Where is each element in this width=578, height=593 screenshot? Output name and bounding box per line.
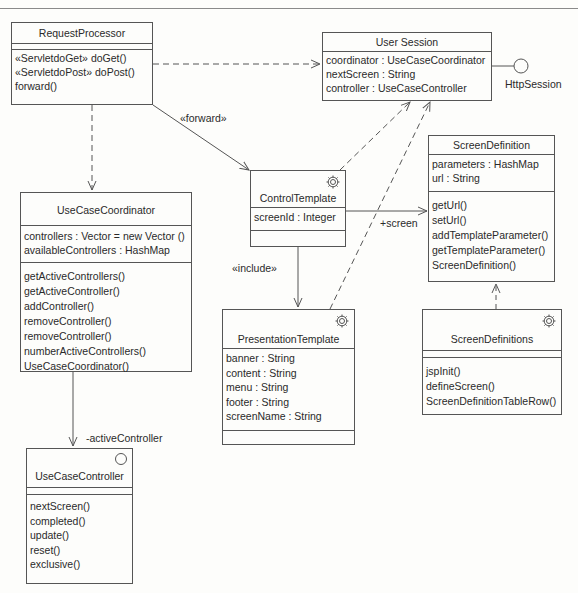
operations-section: getActiveControllers() getActiveControll…: [21, 263, 191, 376]
operation: exclusive(): [30, 557, 129, 572]
operation: addController(): [24, 299, 188, 314]
operation: removeController(): [24, 314, 188, 329]
attribute: footer : String: [226, 395, 351, 410]
operation: reset(): [30, 543, 129, 558]
gear-icon: [334, 313, 350, 329]
operation: completed(): [30, 514, 129, 529]
operation: ScreenDefinition(): [432, 258, 551, 273]
attribute: nextScreen : String: [326, 67, 488, 81]
gear-icon: [541, 313, 557, 329]
class-name-block: ControlTemplate: [251, 171, 345, 208]
include-label: «include»: [232, 262, 277, 274]
attributes-section: coordinator : UseCaseCoordinator nextScr…: [323, 52, 491, 96]
operations-section: getUrl() setUrl() addTemplateParameter()…: [429, 192, 554, 275]
class-name-block: PresentationTemplate: [223, 310, 354, 349]
attribute: url : String: [432, 171, 551, 185]
operation: «ServletdoPost» doPost(): [15, 65, 149, 79]
circle-icon: [115, 453, 127, 465]
http-session-label: HttpSession: [505, 78, 562, 90]
operation: addTemplateParameter(): [432, 228, 551, 243]
attribute: coordinator : UseCaseCoordinator: [326, 53, 488, 67]
class-screen-definition[interactable]: ScreenDefinition parameters : HashMap ur…: [428, 135, 555, 282]
class-use-case-controller[interactable]: UseCaseController nextScreen() completed…: [26, 448, 133, 584]
attribute: controller : UseCaseController: [326, 81, 488, 95]
screen-label: +screen: [380, 217, 418, 229]
operations-section: «ServletdoGet» doGet() «ServletdoPost» d…: [12, 50, 152, 94]
attribute: menu : String: [226, 380, 351, 395]
attributes-section: [27, 488, 132, 495]
class-name: PresentationTemplate: [238, 333, 340, 345]
class-control-template[interactable]: ControlTemplate screenId : Integer: [250, 170, 346, 247]
attributes-section: controllers : Vector = new Vector () ava…: [21, 226, 191, 263]
attribute: availableControllers : HashMap: [24, 243, 188, 257]
operation: getActiveController(): [24, 284, 188, 299]
attributes-section: [423, 351, 561, 358]
gear-icon: [325, 174, 341, 190]
operation: defineScreen(): [426, 379, 558, 394]
attributes-section: banner : String content : String menu : …: [223, 349, 354, 431]
operation: ScreenDefinitionTableRow(): [426, 394, 558, 409]
attribute: controllers : Vector = new Vector (): [24, 229, 188, 243]
operation: getActiveControllers(): [24, 269, 188, 284]
class-use-case-coordinator[interactable]: UseCaseCoordinator controllers : Vector …: [20, 192, 192, 372]
class-name: UseCaseController: [35, 470, 124, 482]
class-user-session[interactable]: User Session coordinator : UseCaseCoordi…: [322, 32, 492, 101]
operation: jspInit(): [426, 364, 558, 379]
operation: getUrl(): [432, 198, 551, 213]
operations-section: jspInit() defineScreen() ScreenDefinitio…: [423, 358, 561, 411]
class-presentation-template[interactable]: PresentationTemplate banner : String con…: [222, 309, 355, 445]
operation: forward(): [15, 79, 149, 93]
operation: update(): [30, 528, 129, 543]
class-name: UseCaseCoordinator: [21, 193, 191, 226]
attribute: parameters : HashMap: [432, 157, 551, 171]
attribute: banner : String: [226, 351, 351, 366]
attribute: content : String: [226, 366, 351, 381]
operation: setUrl(): [432, 213, 551, 228]
attribute: screenId : Integer: [254, 210, 342, 224]
class-name: ScreenDefinitions: [451, 333, 533, 345]
class-name: ControlTemplate: [260, 192, 336, 204]
operations-section: [223, 431, 354, 443]
operation: removeController(): [24, 329, 188, 344]
operation: UseCaseCoordinator(): [24, 359, 188, 374]
operations-section: nextScreen() completed() update() reset(…: [27, 495, 132, 576]
operation: «ServletdoGet» doGet(): [15, 51, 149, 65]
class-name: RequestProcessor: [12, 23, 152, 44]
operation: nextScreen(): [30, 499, 129, 514]
operation: numberActiveControllers(): [24, 344, 188, 359]
class-screen-definitions[interactable]: ScreenDefinitions jspInit() defineScreen…: [422, 309, 562, 415]
operation: getTemplateParameter(): [432, 243, 551, 258]
class-name: ScreenDefinition: [429, 136, 554, 155]
operations-section: [251, 231, 345, 243]
class-name-block: UseCaseController: [27, 449, 132, 488]
class-name-block: ScreenDefinitions: [423, 310, 561, 351]
attributes-section: parameters : HashMap url : String: [429, 155, 554, 192]
forward-label: «forward»: [180, 112, 227, 124]
attribute: screenName : String: [226, 409, 351, 424]
active-controller-label: -activeController: [86, 432, 162, 444]
class-request-processor[interactable]: RequestProcessor «ServletdoGet» doGet() …: [11, 22, 153, 105]
attributes-section: screenId : Integer: [251, 208, 345, 231]
class-name: User Session: [323, 33, 491, 52]
